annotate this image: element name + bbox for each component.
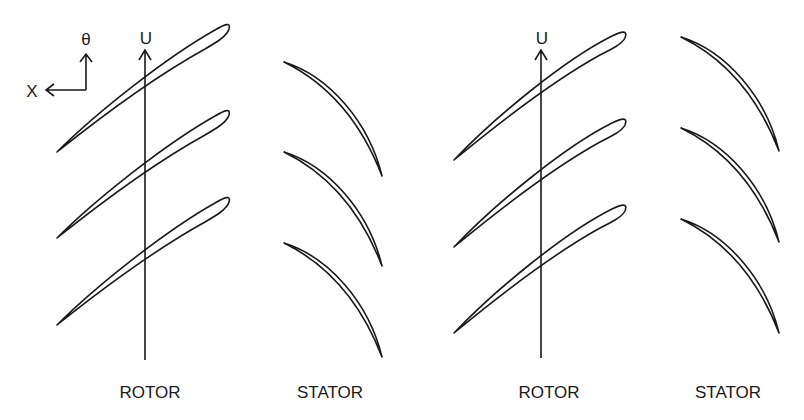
stator-caption: STATOR	[695, 383, 761, 402]
stator-blade	[681, 219, 779, 333]
x-label: X	[26, 82, 37, 101]
stator-blade	[284, 62, 382, 176]
u-label: U	[140, 29, 152, 48]
theta-label: θ	[81, 30, 90, 49]
rotor-blade	[57, 111, 229, 238]
stator-row-1	[284, 62, 382, 357]
stator-caption: STATOR	[297, 383, 363, 402]
compressor-cascade-diagram: θ X U U ROTOR STATOR ROTOR STATOR	[0, 0, 804, 420]
theta-arrow-icon	[80, 54, 92, 90]
rotor-row-2: U	[454, 29, 626, 358]
x-arrow-icon	[46, 84, 86, 96]
rotor-blade	[454, 205, 626, 333]
u-label: U	[536, 29, 548, 48]
rotor-row-1: U	[57, 25, 229, 360]
coordinate-axes: θ X	[26, 30, 92, 101]
stator-blade	[284, 243, 382, 357]
rotor-caption: ROTOR	[119, 383, 180, 402]
u-velocity-arrow-icon	[139, 50, 151, 360]
stator-row-2	[681, 37, 779, 333]
rotor-caption: ROTOR	[518, 383, 579, 402]
